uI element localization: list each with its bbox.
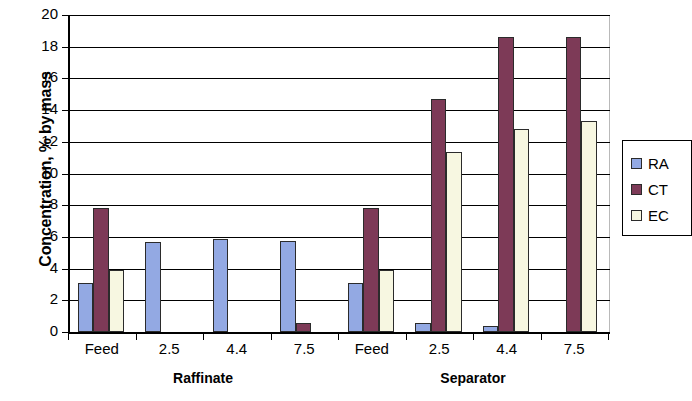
legend-label: CT [648, 181, 668, 198]
legend-swatch-icon [631, 158, 642, 169]
y-tick-mark [62, 205, 68, 206]
gridline [70, 205, 610, 206]
x-tick-mark [608, 332, 609, 340]
x-category-label: Feed [338, 340, 406, 357]
x-category-label: 2.5 [406, 340, 474, 357]
y-tick-label: 0 [12, 322, 58, 339]
x-tick-mark [473, 332, 474, 340]
y-tick-label: 10 [12, 164, 58, 181]
bar-ec-6 [514, 129, 530, 332]
bar-ct-4 [363, 208, 379, 332]
legend-label: RA [648, 155, 669, 172]
bar-ct-7 [566, 37, 582, 332]
bar-ra-6 [483, 326, 499, 332]
bar-ra-2 [213, 239, 229, 332]
legend-entry-ec[interactable]: EC [631, 202, 691, 228]
x-group-label-separator: Separator [338, 370, 608, 386]
legend-entry-ct[interactable]: CT [631, 176, 691, 202]
plot-area [68, 15, 610, 334]
bar-ec-5 [446, 152, 462, 332]
legend-label: EC [648, 207, 669, 224]
x-tick-mark [271, 332, 272, 340]
y-tick-label: 14 [12, 100, 58, 117]
legend-swatch-icon [631, 184, 642, 195]
x-category-label: Feed [68, 340, 136, 357]
bar-ra-1 [145, 242, 161, 332]
y-tick-mark [62, 110, 68, 111]
gridline [70, 15, 610, 16]
y-tick-label: 6 [12, 227, 58, 244]
x-group-label-raffinate: Raffinate [68, 370, 338, 386]
bar-ct-0 [93, 208, 109, 332]
y-tick-mark [62, 15, 68, 16]
y-tick-mark [62, 237, 68, 238]
y-tick-mark [62, 142, 68, 143]
bar-ct-3 [296, 323, 312, 333]
y-tick-label: 2 [12, 290, 58, 307]
bar-ra-3 [280, 241, 296, 332]
bar-ra-4 [348, 283, 364, 332]
x-category-label: 2.5 [136, 340, 204, 357]
bar-ec-0 [109, 270, 125, 332]
bar-ec-4 [379, 270, 395, 332]
y-tick-label: 8 [12, 195, 58, 212]
y-tick-label: 12 [12, 132, 58, 149]
gridline [70, 47, 610, 48]
chart-legend: RACTEC [622, 140, 692, 236]
y-tick-label: 16 [12, 68, 58, 85]
legend-swatch-icon [631, 210, 642, 221]
y-tick-mark [62, 78, 68, 79]
y-tick-mark [62, 174, 68, 175]
y-tick-label: 4 [12, 259, 58, 276]
gridline [70, 174, 610, 175]
bar-ct-5 [431, 99, 447, 332]
x-category-label: 7.5 [541, 340, 609, 357]
x-tick-mark [406, 332, 407, 340]
gridline [70, 142, 610, 143]
y-tick-mark [62, 300, 68, 301]
x-tick-mark [338, 332, 339, 340]
x-tick-mark [136, 332, 137, 340]
bar-ra-5 [415, 323, 431, 333]
x-tick-mark [541, 332, 542, 340]
y-tick-label: 20 [12, 5, 58, 22]
x-category-label: 7.5 [271, 340, 339, 357]
gridline [70, 110, 610, 111]
gridline [70, 237, 610, 238]
x-category-label: 4.4 [473, 340, 541, 357]
x-tick-mark [203, 332, 204, 340]
bar-ct-6 [498, 37, 514, 332]
gridline [70, 78, 610, 79]
y-tick-mark [62, 47, 68, 48]
bar-ec-7 [581, 121, 597, 332]
y-tick-label: 18 [12, 37, 58, 54]
x-tick-mark [68, 332, 69, 340]
x-category-label: 4.4 [203, 340, 271, 357]
legend-entry-ra[interactable]: RA [631, 150, 691, 176]
bar-ra-0 [78, 283, 94, 332]
y-tick-mark [62, 269, 68, 270]
